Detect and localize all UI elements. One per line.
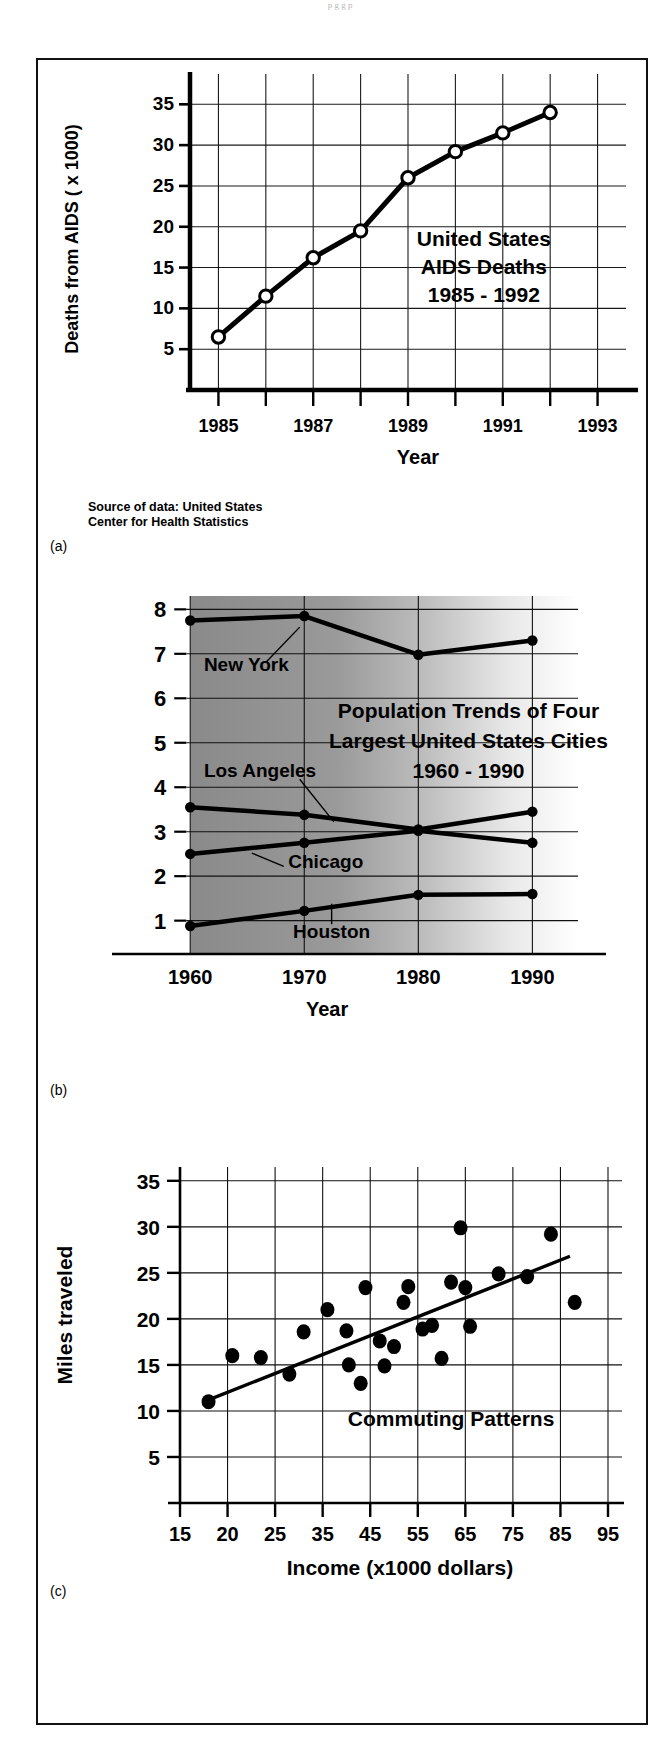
- chart-title-line: AIDS Deaths: [421, 255, 547, 278]
- data-point: [463, 1319, 477, 1334]
- data-point: [377, 1358, 391, 1373]
- x-tick-label: 1991: [483, 416, 523, 436]
- data-point: [358, 1280, 372, 1295]
- panel-a-tag: (a): [50, 538, 67, 554]
- x-tick-label: 1980: [396, 966, 441, 988]
- page-top-note: p g g p: [190, 0, 490, 12]
- chart-a-source-note: Source of data: United States Center for…: [88, 500, 262, 530]
- chart-title-line: United States: [417, 227, 551, 250]
- chart-b-svg: 123456781960197019801990YearNew YorkLos …: [38, 570, 646, 1115]
- x-tick-label: 25: [264, 1523, 286, 1545]
- data-point: [544, 1227, 558, 1242]
- data-point: [492, 1266, 506, 1281]
- x-tick-label: 65: [454, 1523, 476, 1545]
- y-tick-label: 25: [137, 1262, 161, 1285]
- data-point: [435, 1351, 449, 1366]
- data-point: [397, 1295, 411, 1310]
- series-label-chicago: Chicago: [288, 851, 363, 872]
- chart-title-line: Largest United States Cities: [329, 729, 608, 752]
- data-point: [527, 838, 537, 848]
- x-axis-title: Year: [306, 998, 348, 1020]
- data-point: [339, 1323, 353, 1338]
- series-label-new-york: New York: [204, 654, 289, 675]
- data-point: [225, 1348, 239, 1363]
- y-tick-label: 7: [154, 642, 166, 667]
- data-point: [212, 331, 224, 343]
- chart-title-line: Population Trends of Four: [338, 699, 599, 722]
- x-tick-label: 1987: [293, 416, 333, 436]
- data-point: [454, 1220, 468, 1235]
- figure-frame: 510152025303519851987198919911993YearDea…: [36, 58, 648, 1725]
- x-tick-label: 15: [169, 1523, 191, 1545]
- data-point: [520, 1269, 534, 1284]
- data-point: [444, 1274, 458, 1289]
- data-point: [185, 615, 195, 625]
- x-tick-label: 1985: [198, 416, 238, 436]
- panel-c: 510152025303515202535455565758595Income …: [38, 1145, 646, 1625]
- data-point: [527, 635, 537, 645]
- chart-title-line: 1985 - 1992: [428, 283, 540, 306]
- data-point: [307, 252, 319, 264]
- y-tick-label: 6: [154, 686, 166, 711]
- series-label-houston: Houston: [293, 921, 370, 942]
- y-tick-label: 5: [148, 1446, 160, 1469]
- data-point: [449, 145, 461, 157]
- data-point: [544, 106, 556, 118]
- data-point: [402, 172, 414, 184]
- panel-b-tag: (b): [50, 1082, 67, 1098]
- data-point: [425, 1318, 439, 1333]
- panel-b: 123456781960197019801990YearNew YorkLos …: [38, 570, 646, 1115]
- data-point: [387, 1339, 401, 1354]
- data-point: [458, 1280, 472, 1295]
- y-tick-label: 10: [153, 297, 174, 318]
- data-point: [282, 1367, 296, 1382]
- x-tick-label: 1993: [578, 416, 618, 436]
- chart-c-svg: 510152025303515202535455565758595Income …: [38, 1145, 646, 1625]
- y-tick-label: 30: [153, 134, 174, 155]
- trendline: [209, 1256, 570, 1400]
- y-tick-label: 5: [154, 731, 166, 756]
- data-point: [185, 921, 195, 931]
- data-point: [202, 1394, 216, 1409]
- y-tick-label: 3: [154, 820, 166, 845]
- series-label-los-angeles: Los Angeles: [204, 760, 316, 781]
- x-tick-label: 1960: [168, 966, 213, 988]
- x-tick-label: 45: [359, 1523, 381, 1545]
- data-point: [373, 1333, 387, 1348]
- y-axis-title: Miles traveled: [53, 1246, 76, 1385]
- panel-a: 510152025303519851987198919911993YearDea…: [38, 60, 646, 530]
- data-point: [260, 290, 272, 302]
- data-point: [527, 806, 537, 816]
- data-point: [299, 810, 309, 820]
- y-tick-label: 5: [163, 338, 174, 359]
- x-axis-title: Year: [397, 446, 439, 468]
- y-tick-label: 10: [137, 1400, 160, 1423]
- data-point: [354, 225, 366, 237]
- y-axis-title: Deaths from AIDS ( x 1000): [62, 124, 82, 353]
- data-point: [297, 1324, 311, 1339]
- data-point: [299, 906, 309, 916]
- page-root: p g g p 51015202530351985198719891991199…: [0, 0, 671, 1743]
- data-point: [299, 611, 309, 621]
- y-tick-label: 25: [153, 175, 175, 196]
- panel-c-tag: (c): [50, 1583, 66, 1599]
- x-tick-label: 1990: [510, 966, 555, 988]
- data-point: [342, 1357, 356, 1372]
- y-tick-label: 35: [153, 93, 175, 114]
- data-point: [497, 127, 509, 139]
- data-point: [568, 1295, 582, 1310]
- y-tick-label: 8: [154, 597, 166, 622]
- y-tick-label: 4: [154, 775, 167, 800]
- y-tick-label: 15: [137, 1354, 161, 1377]
- x-axis-title: Income (x1000 dollars): [287, 1556, 513, 1579]
- data-point: [413, 890, 423, 900]
- x-tick-label: 35: [312, 1523, 334, 1545]
- chart-title: Commuting Patterns: [348, 1407, 555, 1430]
- x-tick-label: 75: [502, 1523, 524, 1545]
- data-point: [413, 826, 423, 836]
- x-tick-label: 95: [597, 1523, 619, 1545]
- data-point: [401, 1279, 415, 1294]
- data-point: [254, 1350, 268, 1365]
- data-point: [185, 849, 195, 859]
- y-tick-label: 30: [137, 1216, 160, 1239]
